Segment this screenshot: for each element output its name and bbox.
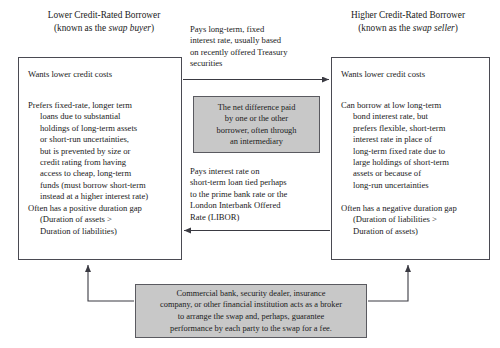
swap-diagram-canvas: Lower Credit-Rated Borrower (known as th… [0, 0, 500, 348]
left-title-emphasis: swap buyer [108, 23, 151, 33]
connector-broker-to-right [368, 265, 408, 301]
right-party-title-line2: (known as the swap seller) [318, 22, 498, 35]
right-party-duration-gap: Often has a negative duration gap (Durat… [341, 203, 483, 237]
left-party-title: Lower Credit-Rated Borrower (known as th… [14, 9, 194, 34]
left-party-goal: Wants lower credit costs [28, 69, 175, 80]
left-title-prefix: (known as the [54, 23, 108, 33]
bottom-flow-label: Pays interest rate on short-term loan ti… [190, 166, 330, 223]
left-title-suffix: ) [151, 23, 154, 33]
right-party-title: Higher Credit-Rated Borrower (known as t… [318, 9, 498, 34]
right-title-prefix: (known as the [358, 23, 412, 33]
left-party-description: Prefers fixed-rate, longer term loans du… [28, 100, 175, 203]
net-difference-box: The net difference paid by one or the ot… [193, 96, 320, 153]
intermediary-box: Commercial bank, security dealer, insura… [135, 284, 367, 338]
right-party-box: Wants lower credit costs Can borrow at l… [331, 57, 490, 260]
left-party-box: Wants lower credit costs Prefers fixed-r… [18, 57, 182, 260]
connector-broker-to-left [88, 265, 134, 301]
right-party-goal: Wants lower credit costs [341, 69, 483, 80]
right-title-emphasis: swap seller [413, 23, 455, 33]
right-party-description: Can borrow at low long-term bond interes… [341, 100, 483, 191]
right-party-title-line1: Higher Credit-Rated Borrower [318, 9, 498, 22]
top-flow-label: Pays long-term, fixed interest rate, usu… [190, 24, 326, 70]
left-party-title-line2: (known as the swap buyer) [14, 22, 194, 35]
left-party-duration-gap: Often has a positive duration gap (Durat… [28, 203, 175, 237]
right-title-suffix: ) [455, 23, 458, 33]
left-party-title-line1: Lower Credit-Rated Borrower [14, 9, 194, 22]
